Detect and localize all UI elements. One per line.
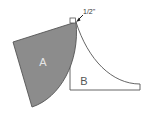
shape-a-label: A	[39, 56, 47, 68]
dimension-arrow-icon	[76, 15, 83, 22]
shape-b-label: B	[80, 75, 87, 87]
dimension-label: 1/2"	[83, 8, 96, 15]
corner-square-marker	[70, 18, 76, 23]
diagram-canvas: 1/2" A B	[0, 0, 146, 114]
